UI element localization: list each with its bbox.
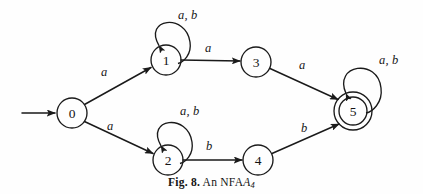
edge-label-1-to-3: a: [205, 42, 211, 55]
edge-label-4-to-5: b: [301, 122, 307, 135]
state-label-5: 5: [350, 104, 357, 119]
caption-text: An NFA: [203, 176, 244, 188]
state-node-1[interactable]: 1: [151, 45, 181, 75]
state-node-3[interactable]: 3: [241, 47, 271, 77]
state-node-2[interactable]: 2: [153, 145, 183, 175]
state-label-4: 4: [255, 153, 262, 168]
state-label-2: 2: [165, 153, 172, 168]
edge-1-to-3: [181, 60, 240, 61]
figure-nfa-a4: 0 1 2 3 4 5 a a a, b a a a, b b b a, b: [0, 0, 423, 194]
edge-0-to-2: [85, 122, 154, 154]
edge-label-0-to-2: a: [107, 120, 113, 133]
state-label-1: 1: [163, 53, 170, 68]
self-loop-state-2: [157, 122, 192, 163]
state-node-5-accepting[interactable]: 5: [334, 92, 372, 130]
edge-label-self-loop-1: a, b: [178, 9, 198, 22]
edge-label-0-to-1: a: [101, 66, 107, 79]
edge-label-3-to-5: a: [299, 59, 305, 72]
edge-0-to-1: [85, 68, 152, 105]
edge-label-2-to-4: b: [206, 140, 212, 153]
figure-caption: Fig. 8. An NFAA4: [0, 176, 423, 190]
self-loop-state-1: [155, 22, 190, 63]
automaton-diagram: 0 1 2 3 4 5: [0, 0, 423, 194]
state-node-4[interactable]: 4: [243, 145, 273, 175]
caption-automaton-subscript: 4: [250, 180, 255, 190]
edge-label-self-loop-5: a, b: [379, 54, 399, 67]
state-label-0: 0: [69, 106, 76, 121]
state-node-0[interactable]: 0: [57, 98, 87, 128]
edge-label-self-loop-2: a, b: [180, 105, 200, 118]
caption-prefix: Fig. 8.: [168, 176, 200, 188]
state-label-3: 3: [253, 55, 260, 70]
edge-3-to-5: [270, 69, 338, 100]
